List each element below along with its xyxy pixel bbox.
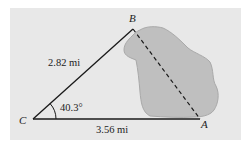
side-label-CB: 2.82 mi <box>48 57 80 68</box>
side-label-CA: 3.56 mi <box>96 124 128 135</box>
vertex-label-B: B <box>129 12 136 24</box>
triangle-diagram: B C A 2.82 mi 3.56 mi 40.3° <box>0 0 251 150</box>
vertex-label-A: A <box>200 118 208 130</box>
angle-arc-C <box>50 104 56 119</box>
angle-label-C: 40.3° <box>60 102 83 113</box>
vertex-label-C: C <box>19 114 27 126</box>
side-CB <box>33 29 133 119</box>
lake-shape <box>124 27 218 118</box>
